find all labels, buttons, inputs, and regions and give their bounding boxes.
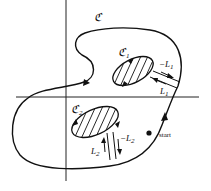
hole-c1-label: ℭ1: [118, 46, 130, 60]
arrow-icon: [117, 149, 122, 155]
contour-diagram: start ℭ ℭ1 −L1 L1: [0, 0, 211, 191]
cut-l1-label: L1: [159, 86, 169, 98]
arrow-icon: [122, 81, 128, 87]
outer-contour: [12, 28, 181, 169]
start-label: start: [159, 131, 171, 139]
start-point: [146, 130, 151, 135]
hole-c2: ℭ2 −L2 L2: [55, 95, 136, 160]
cut-neg-l1-label: −L1: [159, 59, 174, 71]
outer-contour-label: ℭ: [94, 11, 103, 23]
cut-l2-label: L2: [90, 146, 100, 158]
arrow-icon: [167, 73, 174, 78]
cut-neg-l2-label: −L2: [120, 133, 135, 145]
arrow-icon: [101, 137, 106, 143]
hole-c1: ℭ1 −L1 L1: [100, 45, 180, 100]
hole-c2-label: ℭ2: [71, 103, 83, 117]
arrow-icon: [152, 78, 158, 83]
